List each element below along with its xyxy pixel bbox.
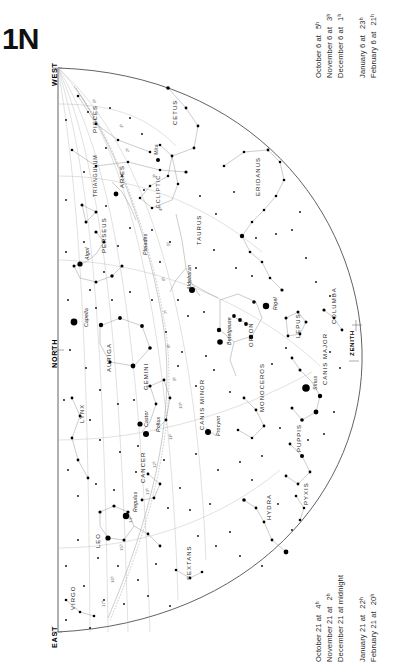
star-label-sirius: Sirius <box>312 376 318 390</box>
hour-tick-label-8: 8ʰ <box>166 344 171 348</box>
hour-tick-label-9: 9ʰ <box>172 377 177 381</box>
star-label-regulus: Regulus <box>132 492 138 512</box>
star-label-pleiades: Pleiades <box>142 234 148 256</box>
constellation-label-perseus: PERSEUS <box>101 217 107 253</box>
hour-tick-label-3: 3ʰ <box>152 174 157 178</box>
date-row-bottom-2: December 21 at midnight <box>336 569 345 662</box>
hour-tick-label-15: 15ʰ <box>119 544 124 551</box>
star-label-aldebaran: Aldebaran <box>186 265 192 290</box>
zenith-label: ZENITH <box>348 330 355 356</box>
constellation-label-auriga: AURIGA <box>106 343 112 372</box>
star-label-rigel: Rigel <box>272 297 278 310</box>
constellation-label-cetus: CETUS <box>172 100 178 125</box>
hour-tick-label-1: 1ʰ <box>119 124 124 128</box>
constellation-label-virgo: VIRGO <box>70 586 76 610</box>
constellation-label-pisces: PISCES <box>92 105 98 133</box>
constellation-label-taurus: TAURUS <box>196 215 202 245</box>
star-label-castor: Castor <box>143 411 149 427</box>
date-row-top-2: December 6 at1ʰ <box>336 14 345 78</box>
constellation-label-aries: ARIES <box>119 165 125 188</box>
constellation-label-puppis: PUPPIS <box>296 424 302 452</box>
cardinal-label-west: WEST <box>50 62 59 86</box>
date-row-bottom-4: February 21 at20ʰ <box>369 594 378 662</box>
hour-tick-label-17: 17ʰ <box>101 600 106 607</box>
star-label-mira: Mira <box>153 144 159 155</box>
hour-tick-label-12: 12ʰ <box>152 461 157 468</box>
hour-tick-label-10: 10ʰ <box>178 402 183 409</box>
star-label-algol: Algol <box>84 247 90 260</box>
date-row-top-4: February 6 at21ʰ <box>369 14 378 78</box>
constellation-label-sextans: SEXTANS <box>186 545 192 580</box>
star-chart-page: 1N <box>0 0 402 672</box>
constellation-label-orion: ORION <box>248 322 254 347</box>
constellation-label-canis-major: CANIS MAJOR <box>322 333 328 385</box>
constellation-label-eridanus: ERIDANUS <box>255 157 261 196</box>
hour-tick-label-6: 6ʰ <box>161 277 166 281</box>
date-row-bottom-1: November 21 at2ʰ <box>325 593 334 662</box>
constellation-label-columba: COLUMBA <box>331 287 337 324</box>
constellation-label-triangulum: TRIANGULUM <box>92 155 98 197</box>
cardinal-label-north: NORTH <box>50 339 59 368</box>
constellation-label-cancer: CANCER <box>140 452 146 483</box>
hour-tick-label-16: 16ʰ <box>110 576 115 583</box>
constellation-label-hydra: HYDRA <box>266 494 272 520</box>
star-label-betelgeuse: Betelgeuse <box>226 317 232 345</box>
constellation-label-pyxis: PYXIS <box>303 482 309 505</box>
hour-tick-label-7: 7ʰ <box>163 310 168 314</box>
star-label-procyon: Procyon <box>215 416 221 436</box>
date-row-bottom-0: October 21 at4ʰ <box>314 601 323 662</box>
date-row-top-1: November 6 at3ʰ <box>325 14 334 78</box>
cardinal-label-east: EAST <box>50 626 59 648</box>
date-row-top-0: October 6 at5ʰ <box>314 22 323 78</box>
hour-tick-label-5: 5ʰ <box>166 242 171 246</box>
hour-tick-label-2: 2ʰ <box>125 148 130 152</box>
constellation-label-gemini: GEMINI <box>143 363 149 390</box>
hour-tick-label-0: 0ʰ <box>92 99 97 103</box>
hour-tick-label-11: 11ʰ <box>168 434 173 440</box>
hour-tick-label-14: 14ʰ <box>128 516 133 523</box>
constellation-label-lynx: LYNX <box>79 404 85 423</box>
horizon-boundary <box>58 68 362 632</box>
star-label-pollux: Pollux <box>155 417 161 432</box>
constellation-label-lepus: LEPUS <box>295 313 301 338</box>
hour-tick-label-4: 4ʰ <box>158 207 163 211</box>
star-label-capella: Capella <box>83 308 89 327</box>
date-row-top-3: January 6 at23ʰ <box>358 17 367 78</box>
date-row-bottom-3: January 21 at22ʰ <box>358 597 367 662</box>
constellation-label-monoceros: MONOCEROS <box>259 363 265 412</box>
constellation-label-leo: LEO <box>95 533 101 548</box>
constellation-label-canis-minor: CANIS MINOR <box>199 379 205 430</box>
hour-tick-label-13: 13ʰ <box>145 488 150 495</box>
ecliptic-label: ECLIPTIC <box>155 175 161 208</box>
